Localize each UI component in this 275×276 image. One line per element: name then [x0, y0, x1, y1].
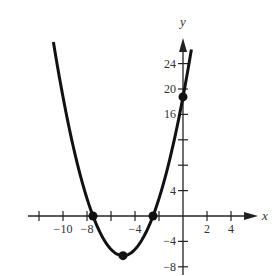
x-tick-label: −8 [81, 222, 94, 236]
y-axis-arrow-icon [179, 38, 187, 52]
x-tick-label: 2 [204, 222, 210, 236]
y-axis-label: y [178, 14, 186, 29]
tick-labels: −10−8−4242420164−4−8 [54, 57, 234, 274]
parabola-chart: −10−8−4242420164−4−8 x y [0, 0, 275, 276]
point-vertex [119, 251, 128, 260]
point-y-intercept [179, 92, 188, 101]
y-tick-label: 4 [170, 184, 176, 198]
x-tick-label: −10 [54, 222, 73, 236]
y-tick-label: 16 [164, 107, 176, 121]
x-tick-label: −4 [129, 222, 142, 236]
point-x-intercept [89, 212, 98, 221]
parabola-curve [53, 42, 191, 256]
x-axis-label: x [261, 208, 268, 223]
point-x-intercept [149, 212, 158, 221]
y-tick-label: −4 [163, 234, 176, 248]
y-tick-label: 24 [164, 57, 176, 71]
y-tick-label: 20 [164, 82, 176, 96]
x-axis-arrow-icon [244, 212, 258, 220]
x-tick-label: 4 [228, 222, 234, 236]
y-tick-label: −8 [163, 260, 176, 274]
axis-ticks [39, 64, 231, 267]
